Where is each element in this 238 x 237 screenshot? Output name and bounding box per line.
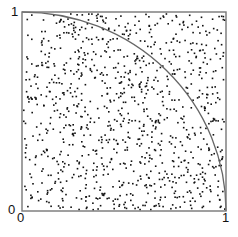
quarter-circle-curve <box>22 12 226 211</box>
y-axis-label-top: 1 <box>11 5 18 18</box>
x-axis-label-right: 1 <box>222 211 229 224</box>
scatter-plot <box>0 0 238 237</box>
plot-frame <box>22 12 226 211</box>
data-points <box>23 13 226 210</box>
y-axis-label-origin: 0 <box>8 203 15 216</box>
x-axis-label-origin: 0 <box>17 211 24 224</box>
